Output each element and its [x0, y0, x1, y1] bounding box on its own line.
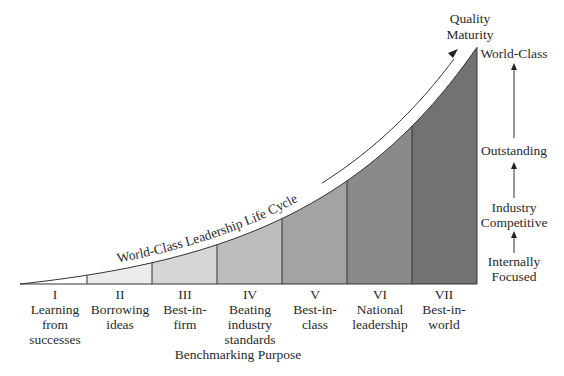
y-axis-title-line2: Maturity	[446, 27, 493, 42]
benchmarking-diagram: World-Class Leadership Life Cycle ILearn…	[0, 0, 564, 376]
maturity-internally-focused-1: Internally	[488, 254, 541, 269]
maturity-outstanding: Outstanding	[481, 143, 547, 158]
stage-labels: ILearningfromsuccessesIIBorrowingideasII…	[29, 287, 466, 347]
stage-label: National	[357, 302, 404, 317]
maturity-industry-competitive-1: Industry	[492, 200, 537, 215]
stage-numeral: IV	[243, 287, 257, 302]
y-axis-title-line1: Quality	[450, 11, 491, 26]
stage-label: from	[42, 317, 69, 332]
stage-label: successes	[29, 332, 81, 347]
stage-numeral: VI	[373, 287, 388, 302]
x-axis-title: Benchmarking Purpose	[175, 347, 301, 362]
stage-label: leadership	[352, 317, 408, 332]
stage-fill-6	[347, 126, 412, 284]
stage-label: Best-in-	[163, 302, 207, 317]
stage-label: Borrowing	[91, 302, 150, 317]
stage-label: industry	[228, 317, 273, 332]
stage-numeral: V	[310, 287, 320, 302]
stage-label: world	[428, 317, 460, 332]
stage-label: standards	[225, 332, 276, 347]
stage-label: Beating	[229, 302, 271, 317]
stage-label: class	[302, 317, 328, 332]
arrow-up-icon	[511, 63, 517, 70]
stage-numeral: III	[178, 287, 192, 302]
maturity-world-class: World-Class	[480, 46, 547, 61]
arrow-up-icon	[511, 231, 517, 238]
stage-label: Best-in-	[422, 302, 466, 317]
stage-label: Learning	[31, 302, 80, 317]
stage-numeral: I	[53, 287, 58, 302]
stage-label: ideas	[106, 317, 134, 332]
stage-fill-7	[412, 47, 477, 284]
stage-label: firm	[173, 317, 197, 332]
maturity-ladder: Internally Focused Industry Competitive …	[480, 46, 547, 284]
stage-label: Best-in-	[293, 302, 337, 317]
stage-fills	[20, 47, 477, 284]
arrow-up-icon	[511, 162, 517, 169]
maturity-internally-focused-2: Focused	[492, 269, 537, 284]
stage-numeral: VII	[435, 287, 454, 302]
arrowhead-icon	[448, 49, 458, 58]
maturity-industry-competitive-2: Competitive	[481, 215, 548, 230]
stage-numeral: II	[116, 287, 125, 302]
